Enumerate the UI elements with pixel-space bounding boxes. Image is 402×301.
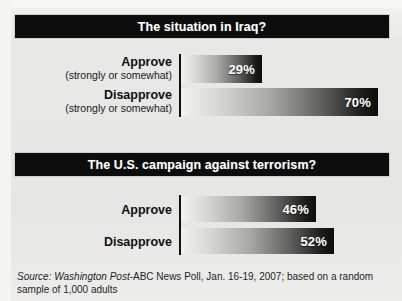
row-label-main: Approve <box>20 55 172 69</box>
panel-iraq-row-disapprove-label: Disapprove (strongly or somewhat) <box>20 88 172 115</box>
panel-terrorism-bar-disapprove: 52% <box>181 228 334 254</box>
row-label-sub: (strongly or somewhat) <box>20 69 172 82</box>
panel-iraq-header: The situation in Iraq? <box>14 14 390 39</box>
bar-value-label: 46% <box>282 202 316 217</box>
source-note: Source: Washington Post-ABC News Poll, J… <box>17 271 389 296</box>
row-label-sub: (strongly or somewhat) <box>20 102 172 115</box>
poll-infographic: The situation in Iraq? Approve (strongly… <box>0 0 402 301</box>
panel-terrorism-bar-approve: 46% <box>181 196 316 222</box>
row-label-main: Approve <box>20 203 172 217</box>
panel-iraq-row-approve-label: Approve (strongly or somewhat) <box>20 55 172 82</box>
bar-value-label: 29% <box>228 62 262 77</box>
bar-value-label: 52% <box>300 234 334 249</box>
left-margin-strip <box>0 0 11 301</box>
bar-value-label: 70% <box>344 95 378 110</box>
panel-terrorism-row-approve-label: Approve <box>20 203 172 217</box>
source-publication: Washington Post <box>54 271 129 282</box>
source-prefix: Source: <box>17 271 54 282</box>
row-label-main: Disapprove <box>20 235 172 249</box>
top-margin-strip <box>0 0 402 8</box>
panel-iraq-bar-approve: 29% <box>181 55 262 83</box>
panel-terrorism-row-disapprove-label: Disapprove <box>20 235 172 249</box>
panel-terrorism-header: The U.S. campaign against terrorism? <box>14 152 390 177</box>
panel-iraq-bar-disapprove: 70% <box>181 88 378 116</box>
row-label-main: Disapprove <box>20 88 172 102</box>
